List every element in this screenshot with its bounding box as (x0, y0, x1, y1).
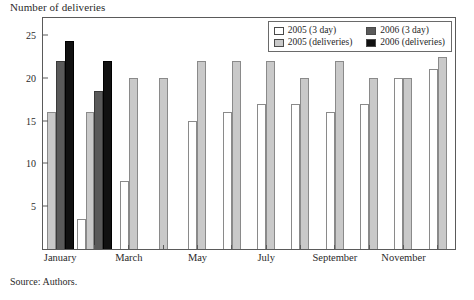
bar-s2005_del (300, 78, 309, 249)
y-tick-label: 5 (31, 201, 43, 212)
bar-s2005_del (438, 57, 447, 250)
bar-group (215, 18, 249, 249)
x-tick-mark (403, 245, 404, 249)
bar-s2005_3day (291, 104, 300, 249)
bar-group (112, 18, 146, 249)
y-tick-mark (43, 206, 48, 207)
legend-swatch-s2006_del (366, 39, 376, 47)
bar-s2006_3day (56, 61, 65, 249)
bar-s2006_3day (94, 91, 103, 249)
bar-s2005_del (159, 78, 168, 249)
bar-group (180, 18, 214, 249)
y-tick-label: 25 (26, 30, 43, 41)
bar-s2005_3day (120, 181, 129, 249)
x-tick-mark (334, 245, 335, 249)
bar-s2006_del (103, 61, 112, 249)
bar-s2005_del (47, 112, 56, 249)
x-tick-label-november: November (381, 252, 425, 263)
legend-item-s2006_del: 2006 (deliveries) (366, 37, 445, 48)
legend-item-s2005_del: 2005 (deliveries) (274, 37, 353, 48)
legend-label-s2005_del: 2005 (deliveries) (288, 37, 353, 48)
bar-s2005_3day (326, 112, 335, 249)
y-tick-mark (43, 163, 48, 164)
bar-group (43, 18, 77, 249)
chart-legend: 2005 (3 day)2006 (3 day)2005 (deliveries… (268, 21, 452, 52)
source-note: Source: Authors. (10, 276, 77, 287)
bar-group (77, 18, 111, 249)
legend-swatch-s2005_3day (274, 27, 284, 35)
x-tick-mark (163, 245, 164, 249)
x-tick-mark (266, 245, 267, 249)
bar-s2005_3day (257, 104, 266, 249)
plot-frame: 2005 (3 day)2006 (3 day)2005 (deliveries… (42, 17, 456, 250)
y-tick-mark (43, 35, 48, 36)
x-tick-mark (94, 245, 95, 249)
legend-swatch-s2005_del (274, 39, 284, 47)
bar-group (352, 18, 386, 249)
bar-s2005_3day (188, 121, 197, 249)
legend-label-s2006_del: 2006 (deliveries) (380, 37, 445, 48)
x-tick-mark (128, 245, 129, 249)
figure-root: Number of deliveries 2005 (3 day)2006 (3… (0, 0, 474, 300)
y-axis-title: Number of deliveries (10, 1, 105, 13)
y-tick-label: 20 (26, 72, 43, 83)
x-tick-mark (197, 245, 198, 249)
legend-label-s2005_3day: 2005 (3 day) (288, 25, 337, 36)
y-tick-mark (43, 77, 48, 78)
x-tick-mark (300, 245, 301, 249)
bar-s2005_del (403, 78, 412, 249)
x-tick-label-may: May (188, 252, 207, 263)
x-tick-label-march: March (115, 252, 142, 263)
y-tick-mark (43, 120, 48, 121)
y-tick-label: 10 (26, 158, 43, 169)
legend-item-s2006_3day: 2006 (3 day) (366, 25, 445, 36)
x-tick-mark (369, 245, 370, 249)
bar-group (318, 18, 352, 249)
bar-s2005_3day (223, 112, 232, 249)
bar-s2005_del (86, 112, 95, 249)
bar-s2005_3day (429, 69, 438, 249)
bar-group (146, 18, 180, 249)
bar-s2005_del (369, 78, 378, 249)
legend-label-s2006_3day: 2006 (3 day) (380, 25, 429, 36)
x-tick-label-september: September (312, 252, 357, 263)
x-tick-label-july: July (257, 252, 275, 263)
bar-s2005_3day (360, 104, 369, 249)
legend-swatch-s2006_3day (366, 27, 376, 35)
bar-s2006_del (65, 41, 74, 249)
bar-s2005_del (129, 78, 138, 249)
bar-group (283, 18, 317, 249)
x-tick-mark (231, 245, 232, 249)
bar-s2005_3day (394, 78, 403, 249)
bar-group (249, 18, 283, 249)
legend-item-s2005_3day: 2005 (3 day) (274, 25, 353, 36)
x-tick-mark (60, 245, 61, 249)
bar-group (386, 18, 420, 249)
bar-s2005_del (232, 61, 241, 249)
x-tick-label-january: January (44, 252, 77, 263)
bar-s2005_del (197, 61, 206, 249)
bar-s2005_del (266, 61, 275, 249)
plot-area (43, 18, 455, 249)
x-tick-mark (437, 245, 438, 249)
bar-group (421, 18, 455, 249)
bar-s2005_3day (77, 219, 86, 249)
bar-s2005_del (335, 61, 344, 249)
y-tick-label: 15 (26, 115, 43, 126)
